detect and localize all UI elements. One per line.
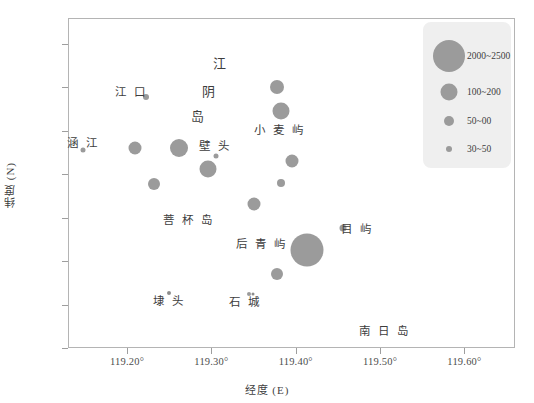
x-axis-title: 经度 (E) (0, 381, 534, 397)
y-tick (62, 131, 68, 132)
map-label: 岛 (191, 106, 207, 125)
x-tick (380, 348, 381, 354)
map-label: 后 青 屿 (236, 235, 287, 251)
map-label: 壁 头 (199, 137, 231, 153)
map-label: 小 麦 屿 (254, 121, 305, 137)
bubble-point (277, 179, 285, 187)
y-tick (62, 348, 68, 349)
bubble-point (271, 268, 283, 280)
bubble-point (170, 139, 188, 157)
bubble-point (128, 142, 141, 155)
x-tick-label: 119.40° (256, 356, 336, 367)
bubble-point (200, 161, 217, 178)
figure-bubble-map: 25.20°25.25°25.30°25.35°25.40°25.45°25.5… (0, 0, 534, 403)
y-tick (62, 218, 68, 219)
bubble-point (270, 80, 284, 94)
legend-label: 2000~2500 (467, 51, 510, 61)
legend-label: 50~00 (467, 116, 491, 126)
bubble-point (148, 178, 160, 190)
map-label: 目 屿 (341, 220, 373, 236)
y-tick (62, 261, 68, 262)
x-tick-label: 119.20° (87, 356, 167, 367)
y-axis-title: 纬度 (N) (2, 162, 18, 208)
x-tick (211, 348, 212, 354)
map-label: 埭 头 (153, 292, 185, 308)
y-tick (62, 305, 68, 306)
y-tick (62, 174, 68, 175)
legend-bubble (441, 84, 458, 101)
x-tick (296, 348, 297, 354)
map-label: 菩 杯 岛 (163, 211, 214, 227)
map-label: 阴 (202, 81, 218, 100)
bubble-point (290, 233, 323, 266)
legend-label: 30~50 (467, 144, 491, 154)
x-tick-label: 119.60° (424, 356, 504, 367)
bubble-point (214, 154, 219, 159)
bubble-point (247, 197, 260, 210)
bubble-point (273, 102, 290, 119)
map-label: 南 日 岛 (359, 322, 410, 338)
x-tick-label: 119.30° (171, 356, 251, 367)
x-tick-label: 119.50° (340, 356, 420, 367)
x-tick (127, 348, 128, 354)
map-label: 江 口 (115, 83, 147, 99)
legend-label: 100~200 (467, 87, 501, 97)
y-tick (62, 87, 68, 88)
legend-bubble (433, 40, 465, 72)
legend-bubble (444, 116, 454, 126)
bubble-point (286, 155, 299, 168)
y-tick (62, 44, 68, 45)
map-label: 江 (213, 53, 229, 72)
map-label: 涵 江 (67, 134, 99, 150)
legend: 2000~2500100~20050~0030~50 (423, 22, 511, 168)
x-tick (464, 348, 465, 354)
legend-bubble (446, 146, 452, 152)
map-label: 石 城 (229, 293, 261, 309)
